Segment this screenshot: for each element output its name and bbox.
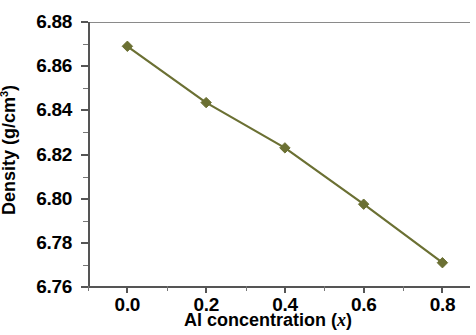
x-tick: 0.0 [126,286,128,293]
x-tick: 0.2 [205,286,207,293]
y-tick-label: 6.84 [36,99,72,121]
y-tick: 6.80 [81,198,88,200]
density-vs-al-concentration-chart: 6.766.786.806.826.846.866.88 0.00.20.40.… [0,0,476,335]
y-tick-label: 6.80 [36,188,72,210]
y-tick-label: 6.76 [36,276,72,298]
y-tick: 6.76 [81,286,88,288]
series-line-density [127,46,442,262]
x-tick: 0.4 [284,286,286,293]
x-tick: 0.8 [441,286,443,293]
y-tick-label: 6.88 [36,11,72,33]
plot-area: 6.766.786.806.826.846.866.88 0.00.20.40.… [88,22,470,287]
y-tick: 6.86 [81,65,88,67]
data-series-density [88,22,470,287]
x-axis-title: Al concentration (x) [0,310,476,331]
y-tick-label: 6.86 [36,55,72,77]
y-tick: 6.78 [81,242,88,244]
x-tick: 0.6 [363,286,365,293]
y-tick: 6.82 [81,154,88,156]
y-axis-title: Density (g/cm3) [0,50,20,250]
y-tick-label: 6.78 [36,232,72,254]
y-tick: 6.84 [81,109,88,111]
series-markers-density [122,41,447,268]
y-tick-label: 6.82 [36,144,72,166]
y-tick: 6.88 [81,21,88,23]
